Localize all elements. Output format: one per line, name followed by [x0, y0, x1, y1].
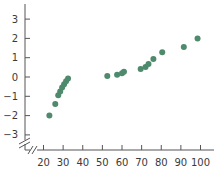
data-point	[52, 101, 58, 107]
x-tick-label: 90	[175, 157, 188, 168]
data-points	[46, 35, 200, 118]
x-tick-label: 80	[155, 157, 168, 168]
data-point	[46, 113, 52, 119]
x-tick-label: 100	[191, 157, 210, 168]
data-point	[181, 44, 187, 50]
data-point	[104, 73, 110, 79]
y-axis-ticks: 3210−1−2−3	[3, 14, 30, 141]
x-tick-label: 60	[116, 157, 129, 168]
x-tick-label: 20	[37, 157, 50, 168]
data-point	[150, 56, 156, 62]
y-tick-label: −1	[3, 91, 18, 102]
x-tick-label: 30	[57, 157, 70, 168]
y-tick-label: −2	[3, 110, 18, 121]
scatter-chart: 3210−1−2−3 2030405060708090100	[0, 0, 221, 178]
y-tick-label: 0	[12, 72, 18, 83]
y-tick-label: 2	[12, 33, 18, 44]
y-tick-label: 1	[12, 52, 18, 63]
x-tick-label: 50	[96, 157, 109, 168]
x-axis-ticks: 2030405060708090100	[37, 145, 210, 168]
x-tick-label: 40	[76, 157, 89, 168]
data-point	[65, 76, 71, 82]
data-point	[145, 61, 151, 67]
y-tick-label: 3	[12, 14, 18, 25]
x-axis-break-icon	[25, 146, 37, 154]
data-point	[159, 49, 165, 55]
data-point	[121, 69, 127, 75]
x-tick-label: 70	[135, 157, 148, 168]
data-point	[195, 35, 201, 41]
y-tick-label: −3	[3, 129, 18, 140]
